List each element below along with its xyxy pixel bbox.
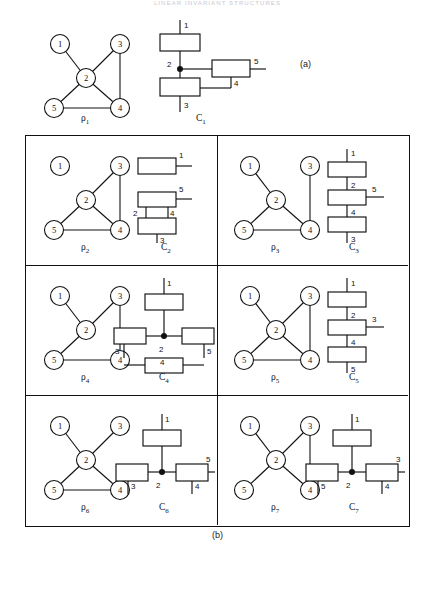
graph-node-label: 2 — [274, 195, 278, 205]
circuit-c1: 1 2 5 4 3 — [150, 16, 270, 121]
circuit-terminal-label: 2 — [351, 311, 356, 320]
graph-caption-rho5: ρ5 — [271, 372, 279, 385]
graph-node-label: 1 — [248, 421, 252, 431]
circuit-terminal-label: 3 — [131, 482, 136, 491]
cell-rho2-c2: 1 3 2 5 4 ρ2 1 5 2 4 3 — [26, 136, 218, 266]
circuit-terminal-label: 2 — [346, 481, 351, 490]
circuit-caption-c1: C1 — [196, 113, 206, 126]
circuit-terminal-label: 4 — [351, 208, 356, 217]
circuit-terminal-label: 1 — [167, 279, 172, 288]
circuit-terminal-label: 2 — [133, 209, 138, 218]
cell-rho5-c5: 1 3 2 5 4 ρ5 1 2 3 4 5 — [218, 266, 408, 396]
circuit-terminal-label: 4 — [195, 482, 200, 491]
graph-rho1: 1 3 2 5 4 — [34, 22, 146, 122]
graph-node-label: 2 — [84, 73, 88, 83]
graph-node-label: 1 — [248, 161, 252, 171]
cell-rho4-c4: 1 3 2 5 4 ρ4 1 — [26, 266, 218, 396]
circuit-c4: 1 2 3 5 4 — [112, 274, 216, 374]
circuit-terminal-label: 1 — [351, 279, 356, 288]
graph-node-label: 5 — [52, 355, 56, 365]
graph-node-label: 2 — [84, 325, 88, 335]
circuit-terminal-label: 1 — [165, 415, 170, 424]
circuit-terminal-label: 1 — [355, 415, 360, 424]
circuit-terminal-label: 2 — [156, 481, 161, 490]
circuit-terminal-label: 5 — [179, 185, 184, 194]
graph-node-label: 5 — [52, 485, 56, 495]
circuit-terminal-label: 3 — [396, 455, 401, 464]
circuit-c7: 1 2 5 3 4 — [304, 410, 406, 504]
circuit-caption-c3: C3 — [349, 242, 359, 255]
graph-node-label: 1 — [58, 39, 62, 49]
circuit-caption-c5: C5 — [349, 372, 359, 385]
circuit-terminal-label: 2 — [167, 60, 172, 69]
graph-node-label: 3 — [308, 161, 312, 171]
circuit-terminal-label: 4 — [160, 358, 165, 367]
graph-node-label: 5 — [242, 225, 246, 235]
circuit-c3: 1 2 5 4 3 — [320, 144, 406, 244]
graph-caption-rho2: ρ2 — [81, 242, 89, 255]
graph-node-label: 3 — [308, 291, 312, 301]
panel-b: 1 3 2 5 4 ρ2 1 5 2 4 3 — [25, 135, 410, 527]
circuit-terminal-label: 3 — [184, 101, 189, 110]
graph-node-label: 1 — [58, 291, 62, 301]
circuit-c5: 1 2 3 4 5 — [320, 274, 406, 374]
circuit-terminal-label: 5 — [254, 57, 259, 66]
cell-rho6-c6: 1 3 2 5 4 ρ6 1 2 3 — [26, 396, 218, 525]
circuit-terminal-label: 4 — [351, 338, 356, 347]
circuit-terminal-label: 1 — [351, 149, 356, 158]
circuit-terminal-label: 4 — [234, 79, 239, 88]
graph-node-label: 3 — [118, 161, 122, 171]
graph-node-label: 2 — [274, 455, 278, 465]
circuit-terminal-label: 2 — [159, 345, 164, 354]
graph-caption-rho3: ρ3 — [271, 242, 279, 255]
graph-node-label: 5 — [52, 225, 56, 235]
graph-node-label: 2 — [84, 455, 88, 465]
running-head: LINEAR INVARIANT STRUCTURES — [0, 0, 435, 6]
graph-node-label: 5 — [242, 485, 246, 495]
circuit-caption-c2: C2 — [161, 242, 171, 255]
graph-caption-rho1: ρ1 — [81, 113, 89, 126]
circuit-terminal-label: 3 — [115, 347, 120, 356]
graph-node-label: 3 — [118, 39, 122, 49]
subfigure-caption-b: (b) — [0, 530, 435, 540]
circuit-caption-c4: C4 — [159, 372, 169, 385]
circuit-terminal-label: 4 — [170, 209, 175, 218]
circuit-terminal-label: 1 — [179, 151, 184, 160]
circuit-c2: 1 5 2 4 3 — [130, 148, 216, 244]
circuit-caption-c6: C6 — [159, 502, 169, 515]
graph-caption-rho6: ρ6 — [81, 502, 89, 515]
circuit-terminal-label: 5 — [321, 482, 326, 491]
circuit-terminal-label: 5 — [206, 455, 211, 464]
cell-rho3-c3: 1 3 2 5 4 ρ3 1 2 5 4 3 — [218, 136, 408, 266]
graph-node-label: 2 — [274, 325, 278, 335]
circuit-caption-c7: C7 — [349, 502, 359, 515]
circuit-c6: 1 2 3 5 4 — [114, 410, 216, 504]
graph-node-label: 1 — [248, 291, 252, 301]
graph-node-label: 1 — [58, 161, 62, 171]
figure-page: LINEAR INVARIANT STRUCTURES 1 3 2 5 4 ρ1 — [0, 0, 435, 606]
cell-rho7-c7: 1 3 2 5 4 ρ7 1 2 5 — [218, 396, 408, 525]
graph-node-label: 5 — [52, 103, 56, 113]
circuit-terminal-label: 4 — [385, 482, 390, 491]
circuit-terminal-label: 5 — [372, 185, 377, 194]
graph-caption-rho4: ρ4 — [81, 372, 89, 385]
graph-node-label: 1 — [58, 421, 62, 431]
graph-caption-rho7: ρ7 — [271, 502, 279, 515]
graph-node-label: 2 — [84, 195, 88, 205]
panel-a: 1 3 2 5 4 ρ1 1 2 5 4 3 C1 (a) — [0, 14, 435, 124]
circuit-terminal-label: 1 — [184, 21, 189, 30]
subfigure-caption-a: (a) — [300, 59, 311, 69]
circuit-terminal-label: 3 — [372, 315, 377, 324]
graph-node-label: 5 — [242, 355, 246, 365]
circuit-terminal-label: 2 — [351, 181, 356, 190]
circuit-terminal-label: 5 — [207, 347, 212, 356]
